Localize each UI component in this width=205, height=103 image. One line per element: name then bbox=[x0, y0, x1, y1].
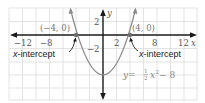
intercept-point-left bbox=[74, 33, 78, 37]
svg-text:x: x bbox=[150, 70, 155, 80]
parabola-graph: −12 −8 2 8 12 x 2 −2 y (−4, 0) (4, 0) x-… bbox=[0, 0, 205, 103]
y-tick-neg2: −2 bbox=[87, 44, 100, 54]
y-axis bbox=[100, 9, 106, 100]
curve-arrow-left-icon bbox=[69, 8, 74, 15]
point-label-right: (4, 0) bbox=[132, 23, 155, 33]
svg-text:− 8: − 8 bbox=[159, 70, 175, 80]
intercept-point-right bbox=[128, 33, 132, 37]
x-tick-8: 8 bbox=[152, 38, 157, 48]
x-intercept-annotation-right: x-intercept bbox=[138, 49, 182, 59]
svg-text:2: 2 bbox=[144, 75, 148, 81]
svg-text:1: 1 bbox=[144, 68, 148, 74]
x-axis-label: x bbox=[191, 38, 196, 48]
x-tick-neg12: −12 bbox=[14, 38, 32, 48]
curve-arrow-right-icon bbox=[133, 8, 138, 15]
svg-text:=: = bbox=[128, 70, 136, 80]
y-tick-2: 2 bbox=[94, 17, 99, 27]
point-label-left: (−4, 0) bbox=[40, 23, 70, 33]
x-intercept-annotation-left: x-intercept bbox=[12, 49, 56, 59]
y-axis-label: y bbox=[106, 8, 112, 18]
equation-label: y = 1 2 x 2 − 8 bbox=[122, 68, 175, 81]
x-tick-12: 12 bbox=[178, 38, 189, 48]
x-tick-2: 2 bbox=[114, 38, 119, 48]
x-tick-neg8: −8 bbox=[40, 38, 53, 48]
